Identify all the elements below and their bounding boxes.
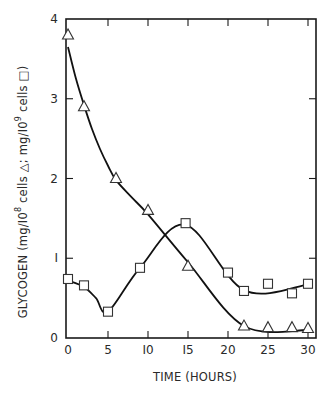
square-marker <box>264 279 273 288</box>
triangle-series-curve <box>68 47 308 332</box>
x-tick-label: 0 <box>64 343 72 357</box>
square-marker <box>288 289 297 298</box>
y-axis-label: GLYCOGEN (mg/I08 cells △; mg/I09 cells □… <box>14 66 30 319</box>
triangle-marker <box>303 322 314 332</box>
triangle-marker <box>79 101 90 111</box>
x-tick-label: 30 <box>300 343 315 357</box>
triangle-marker <box>63 29 74 39</box>
x-tick-label: 25 <box>260 343 275 357</box>
y-tick-label: 0 <box>50 331 58 345</box>
y-tick-label: 2 <box>50 172 58 186</box>
x-tick-label: I0 <box>142 343 153 357</box>
x-tick-label: 20 <box>220 343 235 357</box>
triangle-marker <box>183 260 194 270</box>
plot-frame <box>66 19 316 338</box>
square-marker <box>181 219 190 228</box>
data-markers <box>63 29 314 332</box>
y-label-prefix: GLYCOGEN (mg/I0 <box>16 212 30 318</box>
x-tick-label: 5 <box>104 343 112 357</box>
square-marker <box>64 274 73 283</box>
square-marker <box>136 263 145 272</box>
triangle-marker <box>239 320 250 330</box>
y-tick-label: 4 <box>50 12 58 26</box>
square-marker <box>240 286 249 295</box>
y-label-mid: cells △; mg/I0 <box>16 121 30 207</box>
x-axis-label: TIME (HOURS) <box>152 370 237 384</box>
y-tick-label: I <box>54 251 58 265</box>
square-marker <box>304 279 313 288</box>
y-label-suffix: cells □) <box>16 66 30 116</box>
glycogen-chart: 05I0I52025300I234 TIME (HOURS) GLYCOGEN … <box>0 0 332 395</box>
square-marker <box>104 307 113 316</box>
axis-ticks: 05I0I52025300I234 <box>50 12 316 357</box>
fit-lines <box>68 47 308 332</box>
x-tick-label: I5 <box>182 343 193 357</box>
triangle-marker <box>263 322 274 332</box>
y-tick-label: 3 <box>50 92 58 106</box>
square-marker <box>80 281 89 290</box>
square-marker <box>224 268 233 277</box>
triangle-marker <box>287 322 298 332</box>
